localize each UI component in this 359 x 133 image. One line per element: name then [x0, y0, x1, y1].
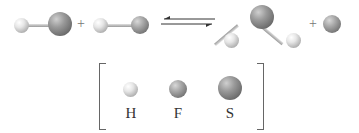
atom-h: [14, 18, 29, 33]
atom-h: [224, 33, 239, 48]
plus-sign-2: +: [309, 16, 317, 32]
plus-sign-1: +: [77, 16, 85, 32]
legend-label-h: H: [121, 105, 141, 122]
atom-h: [286, 33, 301, 48]
legend-label-f: F: [168, 105, 188, 122]
legend-label-s: S: [220, 105, 240, 122]
legend-atom-s: [218, 76, 242, 100]
legend-bracket-right: [257, 63, 264, 130]
legend-atom-h: [123, 82, 138, 97]
atom-s: [250, 5, 274, 29]
atom-f: [131, 16, 149, 34]
legend-bracket-left: [99, 63, 106, 130]
atom-h: [93, 18, 108, 33]
atom-s: [48, 12, 72, 36]
equilibrium-arrow-icon: [160, 14, 216, 30]
atom-f: [323, 15, 341, 33]
legend-atom-f: [169, 80, 187, 98]
